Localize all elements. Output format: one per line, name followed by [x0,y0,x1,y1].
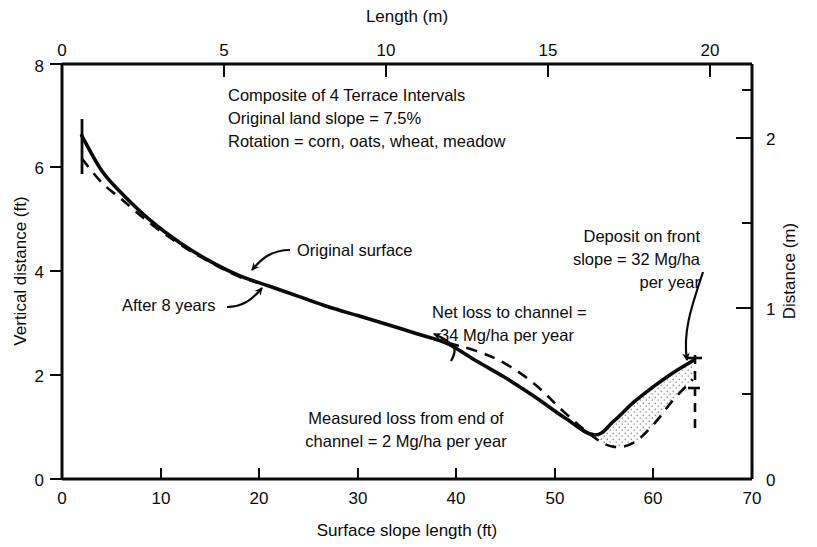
bottom-tick-40: 40 [447,489,466,508]
left-tick-8: 8 [35,57,44,76]
right-tick-0: 0 [766,471,775,490]
left-tick-2: 2 [35,367,44,386]
top-tick-15: 15 [539,41,558,60]
chart-figure: Length (m) 0 5 10 15 20 [0,0,817,547]
after-8-years-label: After 8 years [122,296,216,314]
left-tick-6: 6 [35,159,44,178]
bottom-tick-20: 20 [250,489,269,508]
net-loss-line-1: Net loss to channel = [432,303,587,321]
left-axis-title: Vertical distance (ft) [11,196,30,345]
left-tick-4: 4 [35,263,44,282]
right-tick-1: 1 [766,300,775,319]
deposit-line-1: Deposit on front [584,227,701,245]
bottom-tick-30: 30 [349,489,368,508]
bottom-tick-10: 10 [152,489,171,508]
composite-note-line-2: Original land slope = 7.5% [228,109,421,127]
deposit-line-3: per year [639,273,700,291]
net-loss-line-2: 34 Mg/ha per year [440,326,574,344]
bottom-tick-60: 60 [644,489,663,508]
top-tick-20: 20 [701,41,720,60]
measured-loss-line-1: Measured loss from end of [308,409,504,427]
composite-note-line-1: Composite of 4 Terrace Intervals [228,86,465,104]
top-tick-0: 0 [57,41,66,60]
right-axis-title: Distance (m) [780,223,799,319]
top-tick-5: 5 [219,41,228,60]
deposit-line-2: slope = 32 Mg/ha [573,250,701,268]
bottom-tick-50: 50 [546,489,565,508]
composite-note-line-3: Rotation = corn, oats, wheat, meadow [228,132,506,150]
bottom-tick-0: 0 [57,489,66,508]
bottom-axis-title: Surface slope length (ft) [317,521,497,540]
original-surface-label: Original surface [297,241,413,259]
bottom-tick-70: 70 [743,489,762,508]
soil-erosion-terrace-profile-chart: Length (m) 0 5 10 15 20 [0,0,817,547]
measured-loss-line-2: channel = 2 Mg/ha per year [305,432,507,450]
right-tick-2: 2 [766,130,775,149]
top-tick-10: 10 [377,41,396,60]
top-axis-title: Length (m) [366,7,448,26]
left-tick-0: 0 [35,471,44,490]
